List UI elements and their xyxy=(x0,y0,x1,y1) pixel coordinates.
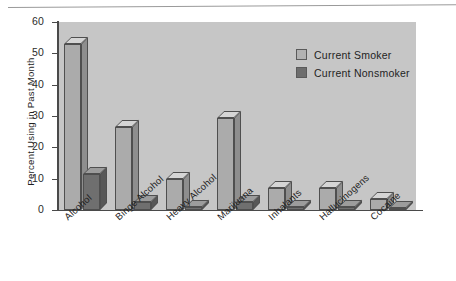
chart-legend: Current Smoker Current Nonsmoker xyxy=(296,47,410,83)
bar-marijuana-current-smoker xyxy=(217,118,234,210)
legend-item-current-smoker: Current Smoker xyxy=(296,47,410,62)
bar-cocaine-current-nonsmoker xyxy=(389,208,406,210)
bar-front-face xyxy=(115,127,132,210)
bar-alcohol-current-smoker xyxy=(64,44,81,210)
bar-binge-alcohol-current-smoker xyxy=(115,127,132,210)
legend-label-current-smoker: Current Smoker xyxy=(314,49,392,61)
legend-item-current-nonsmoker: Current Nonsmoker xyxy=(296,65,410,80)
bars-container xyxy=(0,0,456,281)
chart-figure: Percent Using in Past Month 010203040506… xyxy=(0,0,456,281)
legend-swatch-icon-current-smoker xyxy=(296,49,307,60)
bar-front-face xyxy=(217,118,234,210)
legend-swatch-icon-current-nonsmoker xyxy=(296,67,307,78)
legend-label-current-nonsmoker: Current Nonsmoker xyxy=(314,67,410,79)
bar-front-face xyxy=(64,44,81,210)
bar-front-face xyxy=(389,208,406,210)
